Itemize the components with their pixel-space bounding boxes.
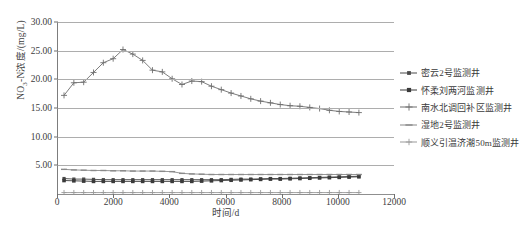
gridline (57, 22, 394, 23)
x-tick-mark (113, 194, 114, 198)
legend-label: 南水北调回补区监测井 (421, 101, 512, 114)
legend-item-2[interactable]: 南水北调回补区监测井 (400, 99, 526, 116)
y-tick-label: 5.00 (35, 160, 52, 170)
gridline (57, 51, 394, 52)
legend-marker-icon (400, 85, 417, 95)
y-tick-mark (54, 22, 58, 23)
figure-container: NO3-N浓度/(mg/L) 5.0010.0015.0020.0025.003… (0, 0, 526, 235)
series-3 (61, 169, 362, 174)
legend-marker-icon (400, 120, 417, 130)
legend-item-3[interactable]: 湿地2号监测井 (400, 116, 526, 133)
legend-marker-icon (400, 68, 417, 78)
series-1 (62, 175, 360, 183)
series-2 (61, 47, 362, 116)
y-tick-mark (54, 50, 58, 51)
legend-label: 顺义引温济潮50m监测井 (421, 136, 519, 149)
x-tick-mark (282, 194, 283, 198)
gridline (57, 165, 394, 166)
gridline (57, 137, 394, 138)
legend-marker-icon (400, 137, 417, 147)
x-tick-mark (338, 194, 339, 198)
legend-marker-icon (400, 102, 417, 112)
gridline (57, 108, 394, 109)
y-tick-label: 30.00 (31, 17, 52, 27)
x-tick-mark (169, 194, 170, 198)
y-axis-title: NO3-N浓度/(mg/L) (13, 0, 29, 125)
legend-label: 密云2号监测井 (421, 66, 480, 79)
x-tick-mark (57, 194, 58, 198)
x-axis-title: 时间/d (57, 205, 394, 219)
y-tick-mark (54, 165, 58, 166)
legend-item-0[interactable]: 密云2号监测井 (400, 64, 526, 81)
y-tick-label: 10.00 (31, 132, 52, 142)
x-tick-mark (226, 194, 227, 198)
legend-item-4[interactable]: 顺义引温济潮50m监测井 (400, 134, 526, 151)
x-tick-mark (394, 194, 395, 198)
y-tick-label: 25.00 (31, 46, 52, 56)
legend-label: 怀柔刘两河监测井 (421, 84, 494, 97)
y-tick-mark (54, 108, 58, 109)
legend-label: 湿地2号监测井 (421, 118, 480, 131)
y-tick-mark (54, 136, 58, 137)
plot-area: 5.0010.0015.0020.0025.0030.00 0200040006… (57, 22, 394, 194)
legend-item-1[interactable]: 怀柔刘两河监测井 (400, 81, 526, 98)
y-tick-mark (54, 79, 58, 80)
y-tick-label: 20.00 (31, 74, 52, 84)
y-tick-label: 15.00 (31, 103, 52, 113)
legend: 密云2号监测井怀柔刘两河监测井南水北调回补区监测井湿地2号监测井顺义引温济潮50… (400, 64, 526, 151)
gridline (57, 79, 394, 80)
